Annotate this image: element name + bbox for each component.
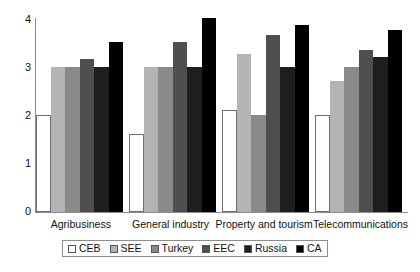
bar-groups bbox=[36, 18, 408, 212]
category-label: General industry bbox=[126, 215, 216, 233]
legend-swatch-icon bbox=[202, 245, 210, 253]
category-label: Property and tourism bbox=[215, 215, 312, 233]
legend-label: Turkey bbox=[162, 243, 194, 254]
legend-label: CEB bbox=[79, 243, 101, 254]
y-tick-3: 3 bbox=[5, 62, 31, 73]
legend-swatch-icon bbox=[68, 245, 76, 253]
bar bbox=[295, 25, 310, 212]
bar bbox=[187, 67, 202, 213]
legend-label: SEE bbox=[121, 243, 142, 254]
x-axis-line bbox=[35, 212, 408, 213]
bar-group bbox=[129, 18, 222, 212]
bar bbox=[315, 115, 330, 212]
bar bbox=[109, 42, 124, 212]
category-axis-labels: AgribusinessGeneral industryProperty and… bbox=[36, 215, 408, 233]
legend-swatch-icon bbox=[151, 245, 159, 253]
category-label: Agribusiness bbox=[36, 215, 126, 233]
legend-item: CA bbox=[296, 243, 322, 254]
bar bbox=[237, 54, 252, 212]
bar bbox=[158, 67, 173, 213]
bar bbox=[94, 67, 109, 213]
legend-swatch-icon bbox=[110, 245, 118, 253]
bar bbox=[144, 67, 159, 213]
bar bbox=[129, 134, 144, 212]
bar-group bbox=[36, 18, 129, 212]
bar bbox=[251, 115, 266, 212]
bar bbox=[330, 81, 345, 212]
y-axis-ticks: 4 3 2 1 0 bbox=[0, 0, 31, 272]
bar-chart: 4 3 2 1 0 AgribusinessGeneral industryPr… bbox=[0, 0, 420, 272]
bar bbox=[36, 115, 51, 212]
bar bbox=[80, 59, 95, 212]
y-tick-4: 4 bbox=[5, 14, 31, 25]
legend-item: SEE bbox=[110, 243, 142, 254]
legend-label: Russia bbox=[255, 243, 287, 254]
bar bbox=[222, 110, 237, 212]
legend-label: EEC bbox=[213, 243, 235, 254]
bar-group bbox=[222, 18, 315, 212]
bar bbox=[359, 50, 374, 212]
legend-item: Russia bbox=[244, 243, 287, 254]
bar bbox=[51, 67, 66, 213]
legend-label: CA bbox=[307, 243, 322, 254]
y-tick-0: 0 bbox=[5, 206, 31, 217]
bar bbox=[202, 18, 217, 212]
legend-item: Turkey bbox=[151, 243, 194, 254]
legend-item: CEB bbox=[68, 243, 101, 254]
bar bbox=[388, 30, 403, 212]
bar bbox=[344, 67, 359, 213]
chart-legend: CEBSEETurkeyEECRussiaCA bbox=[62, 240, 328, 257]
bar bbox=[266, 35, 281, 212]
legend-swatch-icon bbox=[296, 245, 304, 253]
bar bbox=[280, 67, 295, 213]
legend-item: EEC bbox=[202, 243, 235, 254]
bar bbox=[373, 57, 388, 212]
bar-group bbox=[315, 18, 408, 212]
bar bbox=[173, 42, 188, 212]
y-tick-1: 1 bbox=[5, 158, 31, 169]
bar bbox=[65, 67, 80, 213]
legend-swatch-icon bbox=[244, 245, 252, 253]
y-tick-2: 2 bbox=[5, 110, 31, 121]
category-label: Telecommunications bbox=[313, 215, 408, 233]
